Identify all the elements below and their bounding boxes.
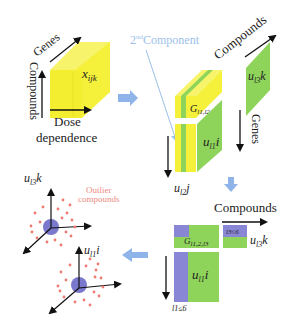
reduced-compounds-matrix: l3≤6 bbox=[223, 225, 247, 248]
tensor-decomposition-diagram: xijk Genes Compounds Dose dependence 2nd… bbox=[0, 0, 298, 329]
dose-factor-matrix bbox=[175, 124, 196, 172]
dose-label-line1: Dose bbox=[54, 114, 81, 129]
data-tensor: xijk bbox=[50, 42, 110, 118]
scatter-plot-top: ul3k Outlier compounds bbox=[24, 171, 120, 253]
reduced-compounds-factor-label: ul3k bbox=[250, 233, 268, 249]
second-component-pointer bbox=[146, 50, 176, 140]
genes-axis-label-right: Genes bbox=[249, 114, 263, 144]
dose-factor-label: ul2j bbox=[174, 181, 190, 197]
second-component-label: 2ndComponent bbox=[130, 33, 200, 47]
scatter-top-axis-label: ul3k bbox=[24, 171, 42, 187]
flow-arrow-right bbox=[118, 90, 138, 106]
genes-limit-label: l1≤6 bbox=[172, 304, 187, 313]
scatter-bottom-axis-label: ul1i bbox=[84, 243, 100, 259]
outlier-label-line2: compounds bbox=[78, 194, 120, 204]
scatter-plot-bottom: ul1i bbox=[50, 243, 120, 313]
reduced-genes-matrix: ul1i bbox=[174, 252, 219, 302]
flow-arrow-down bbox=[224, 177, 238, 192]
compounds-axis-label: Compounds bbox=[27, 62, 41, 120]
reduced-core-matrix: Gl1,2,l3 bbox=[174, 225, 219, 248]
compounds-axis-label-bottom: Compounds bbox=[214, 200, 277, 215]
dose-label-line2: dependence bbox=[36, 130, 98, 145]
flow-arrow-left bbox=[122, 248, 148, 262]
compounds-limit-label: l3≤6 bbox=[226, 228, 239, 236]
